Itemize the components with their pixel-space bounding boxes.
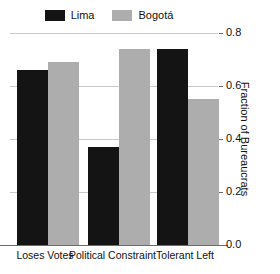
tick-mark-icon	[219, 139, 223, 140]
legend-label-bogota: Bogotá	[138, 10, 173, 21]
legend-swatch-bogota	[112, 10, 132, 21]
bar-lima-tolerant-left	[157, 49, 188, 245]
x-axis-labels: Loses Votes Political Constraint Toleran…	[0, 248, 220, 266]
tick-mark-icon	[219, 33, 223, 34]
y-tick-0_0: 0.0	[219, 245, 261, 246]
bar-bogota-loses-votes	[48, 62, 79, 245]
x-axis-line	[0, 245, 228, 246]
chart-legend: Lima Bogotá	[0, 4, 218, 26]
tick-mark-icon	[219, 86, 223, 87]
bar-chart: Lima Bogotá 0.8 0.6	[0, 0, 280, 274]
bar-bogota-political-constraint	[119, 49, 150, 245]
x-label-tolerant-left: Tolerant Left	[150, 248, 220, 262]
x-label-political-constraint: Political Constraint	[65, 248, 160, 262]
bar-lima-loses-votes	[17, 70, 48, 245]
plot-area	[10, 33, 218, 245]
bar-bogota-tolerant-left	[188, 99, 219, 245]
legend-item-lima: Lima	[45, 10, 95, 21]
bar-lima-political-constraint	[88, 147, 119, 245]
y-axis-title: Fraction of Bureaucrats	[236, 33, 254, 245]
tick-mark-icon	[219, 192, 223, 193]
bar-group-container	[10, 33, 218, 245]
legend-item-bogota: Bogotá	[112, 10, 173, 21]
legend-label-lima: Lima	[71, 10, 95, 21]
tick-mark-icon	[219, 245, 223, 246]
legend-swatch-lima	[45, 10, 65, 21]
